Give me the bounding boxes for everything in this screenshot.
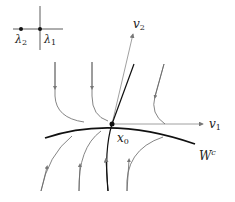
trajectory	[41, 136, 72, 191]
trajectory	[79, 131, 101, 191]
lambda2-label: λ2	[14, 33, 27, 47]
trajectory	[92, 62, 108, 121]
wc-label: Wc	[199, 148, 216, 163]
v2-label: v2	[133, 17, 145, 32]
trajectory	[127, 137, 163, 191]
trajectory	[55, 62, 84, 122]
v1-label: v1	[209, 117, 221, 132]
equilibrium-point	[110, 122, 115, 127]
center-manifold-diagram: λ2 λ1 v1 v2 Wc x0	[0, 0, 235, 202]
eigenvalue-inset: λ2 λ1	[13, 6, 63, 50]
lambda2-point	[19, 27, 23, 31]
lambda1-point	[38, 27, 42, 31]
v2-axis	[112, 34, 133, 124]
x0-label: x0	[117, 131, 129, 146]
lambda1-label: λ1	[43, 33, 56, 47]
